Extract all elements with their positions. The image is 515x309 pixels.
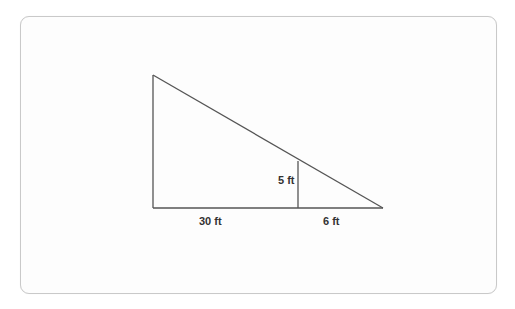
inner-height-label: 5 ft bbox=[278, 174, 295, 186]
triangle-diagram bbox=[0, 0, 515, 309]
short-base-label: 6 ft bbox=[323, 215, 340, 227]
long-base-label: 30 ft bbox=[199, 215, 222, 227]
hypotenuse-line bbox=[153, 75, 383, 208]
